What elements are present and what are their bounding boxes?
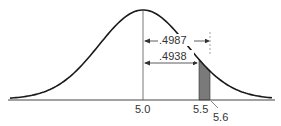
tick-label-5-6: 5.6 <box>213 111 228 123</box>
tick-label-5-5: 5.5 <box>193 103 208 115</box>
label-4938: .4938 <box>159 50 187 62</box>
normal-curve-diagram: .4987 .4938 5.0 5.5 5.6 <box>0 0 281 126</box>
tick-label-5-0: 5.0 <box>135 103 150 115</box>
normal-curve <box>10 10 272 98</box>
label-4987: .4987 <box>159 34 187 46</box>
arrowhead-left-4938 <box>144 61 150 66</box>
leader-5-6 <box>211 101 218 108</box>
arrowhead-left-4987 <box>144 39 150 44</box>
